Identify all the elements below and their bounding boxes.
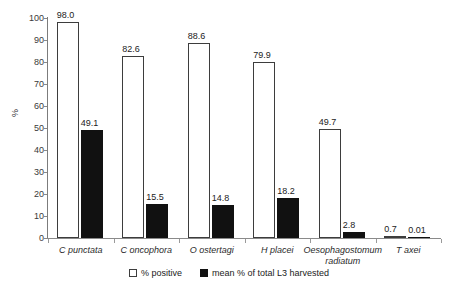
bar-value-label: 0.7 (384, 225, 397, 234)
legend-swatch-hollow-square-icon (129, 269, 137, 277)
y-axis-tick-label: 70 (22, 80, 44, 89)
x-axis-category-label-line: radiatum (300, 256, 386, 267)
bar-value-label: 88.6 (188, 32, 206, 41)
x-axis-separator-mark (179, 239, 180, 243)
bar-chart: % 0102030405060708090100 98.049.182.615.… (0, 0, 458, 290)
y-axis-tick-label: 80 (22, 58, 44, 67)
bar-value-label: 18.2 (277, 187, 295, 196)
bar-group: 0.70.01 (376, 18, 442, 238)
legend-label: % positive (141, 268, 182, 278)
y-axis-tick-label: 30 (22, 168, 44, 177)
bar-value-label: 79.9 (253, 51, 271, 60)
y-axis-tick-label: 90 (22, 36, 44, 45)
x-axis-separator-mark (245, 239, 246, 243)
y-axis-tick-label: 100 (22, 14, 44, 23)
legend-label: mean % of total L3 harvested (212, 268, 329, 278)
x-axis-separator-mark (376, 239, 377, 243)
legend-item[interactable]: mean % of total L3 harvested (200, 268, 329, 278)
bar-value-label: 49.7 (319, 118, 337, 127)
x-axis-separator-mark (48, 239, 49, 243)
y-axis-title: % (10, 104, 20, 122)
bar-value-label: 15.5 (146, 193, 164, 202)
y-axis-tick-label: 60 (22, 102, 44, 111)
bar-value-label: 14.8 (212, 194, 230, 203)
x-axis-category-label-line: T axei (366, 245, 452, 256)
bar-group: 82.615.5 (114, 18, 180, 238)
bar[interactable] (122, 56, 144, 238)
bar-group: 98.049.1 (48, 18, 114, 238)
bar[interactable] (81, 130, 103, 238)
bar[interactable] (277, 198, 299, 238)
legend-swatch-filled-square-icon (200, 269, 208, 277)
y-axis-tick-label: 50 (22, 124, 44, 133)
plot-area: 98.049.182.615.588.614.879.918.249.72.80… (48, 18, 441, 238)
bar-group: 49.72.8 (310, 18, 376, 238)
bar-value-label: 49.1 (81, 119, 99, 128)
bar-group: 88.614.8 (179, 18, 245, 238)
chart-legend: % positivemean % of total L3 harvested (0, 268, 458, 278)
y-axis-tick-label: 10 (22, 212, 44, 221)
bar-value-label: 82.6 (122, 45, 140, 54)
y-axis-tick-label: 20 (22, 190, 44, 199)
x-axis-separator-mark (441, 239, 442, 243)
bar[interactable] (253, 62, 275, 238)
y-axis-tick-label: 40 (22, 146, 44, 155)
bar[interactable] (319, 129, 341, 238)
y-axis-tick-label: 0 (22, 234, 44, 243)
x-axis-category-label: T axei (366, 245, 452, 256)
bar-value-label: 2.8 (343, 221, 356, 230)
bar[interactable] (146, 204, 168, 238)
legend-item[interactable]: % positive (129, 268, 182, 278)
bar-value-label: 0.01 (408, 226, 426, 235)
bar[interactable] (188, 43, 210, 238)
bar[interactable] (57, 22, 79, 238)
bar-group: 79.918.2 (245, 18, 311, 238)
x-axis-separator-mark (114, 239, 115, 243)
x-axis-separator-mark (310, 239, 311, 243)
bar-value-label: 98.0 (57, 11, 75, 20)
bar[interactable] (212, 205, 234, 238)
